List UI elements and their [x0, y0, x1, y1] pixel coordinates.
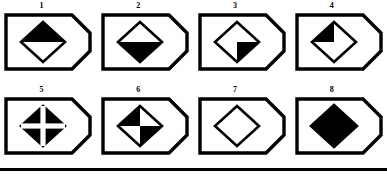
figure-number-label: 7 [233, 84, 237, 95]
figure-2-graphic [99, 11, 191, 73]
figure-cell-6[interactable]: 6 [97, 84, 194, 168]
figure-number-label: 8 [330, 84, 334, 95]
figure-number-label: 2 [136, 0, 140, 11]
figure-6-graphic [99, 95, 191, 157]
white-horizontal-bar-5 [21, 123, 65, 128]
figure-4-graphic [293, 11, 385, 73]
figure-cell-7[interactable]: 7 [194, 84, 291, 168]
figure-number-label: 5 [39, 84, 43, 95]
figure-8-graphic [293, 95, 385, 157]
frame-outline-4 [297, 15, 381, 69]
figure-3-graphic [196, 11, 288, 73]
figure-number-label: 1 [39, 0, 43, 11]
figure-sheet: 1 2 3 [0, 0, 387, 176]
figure-grid: 1 2 3 [0, 0, 387, 168]
figure-cell-5[interactable]: 5 [0, 84, 97, 168]
figure-cell-3[interactable]: 3 [194, 0, 291, 84]
figure-number-label: 3 [233, 0, 237, 11]
figure-7-graphic [196, 95, 288, 157]
figure-cell-4[interactable]: 4 [290, 0, 387, 84]
figure-cell-8[interactable]: 8 [290, 84, 387, 168]
figure-number-label: 6 [136, 84, 140, 95]
figure-cell-2[interactable]: 2 [97, 0, 194, 84]
figure-cell-1[interactable]: 1 [0, 0, 97, 84]
bottom-divider-rule [0, 168, 387, 171]
figure-1-graphic [2, 11, 94, 73]
figure-5-graphic [2, 95, 94, 157]
figure-number-label: 4 [330, 0, 334, 11]
